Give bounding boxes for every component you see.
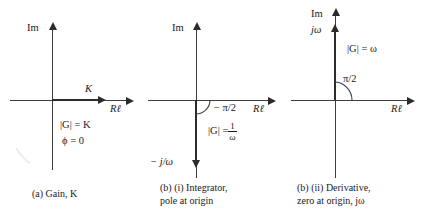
panel-gain: Im Rℓ K |G| = K ϕ = 0 (a) Gain, K — [0, 0, 140, 222]
integrator-magnitude-fraction: 1ω — [228, 122, 236, 142]
fraction-denominator: ω — [228, 133, 236, 142]
imaginary-axis-arrowhead-icon — [49, 22, 57, 30]
derivative-vector-arrowhead-icon — [331, 24, 339, 32]
derivative-magnitude-annotation: |G| = ω — [347, 44, 377, 55]
gain-vector-arrowhead-icon — [98, 96, 106, 104]
real-axis-label: Rℓ — [110, 104, 121, 115]
real-axis-arrowhead-icon — [407, 97, 415, 105]
integrator-vector-arrowhead-icon — [192, 160, 200, 168]
imaginary-axis-label: Im — [311, 9, 323, 20]
gain-vector-label: K — [85, 84, 92, 95]
imaginary-axis-label: Im — [172, 23, 184, 34]
figure-complex-plane-phasors: Im Rℓ K |G| = K ϕ = 0 (a) Gain, K Im Rℓ … — [0, 0, 422, 222]
real-axis-label: Rℓ — [253, 104, 264, 115]
imaginary-axis-arrowhead-icon — [332, 8, 340, 16]
panel-derivative: Im Rℓ jω |G| = ω π/2 (b) (ii) Derivative… — [285, 0, 422, 222]
imaginary-axis-arrowhead-icon — [193, 22, 201, 30]
integrator-vector-label: − j/ω — [150, 157, 173, 168]
panel-caption-integrator: (b) (i) Integrator, pole at origin — [160, 182, 285, 207]
integrator-magnitude-prefix: |G| = — [208, 125, 228, 136]
positive-phase-arc-icon — [319, 76, 365, 122]
gain-phase-annotation: ϕ = 0 — [62, 136, 84, 147]
integrator-magnitude-annotation: |G| =1ω — [208, 122, 237, 142]
gain-magnitude-annotation: |G| = K — [60, 120, 91, 131]
panel-caption-derivative: (b) (ii) Derivative, zero at origin, jω — [297, 182, 422, 207]
imaginary-axis-label: Im — [27, 23, 39, 34]
derivative-angle-label: π/2 — [343, 74, 356, 85]
panel-integrator: Im Rℓ − j/ω − π/2 |G| =1ω (b) (i) Integr… — [140, 0, 285, 222]
fraction-numerator: 1 — [228, 122, 236, 131]
derivative-vector-label: jω — [311, 25, 321, 36]
real-axis-arrowhead-icon — [126, 97, 134, 105]
integrator-angle-label: − π/2 — [214, 103, 236, 114]
real-axis-arrowhead-icon — [268, 97, 276, 105]
gain-vector — [52, 99, 100, 101]
panel-caption-gain: (a) Gain, K — [32, 188, 142, 201]
scan-smudge-icon — [14, 146, 36, 168]
real-axis-label: Rℓ — [391, 104, 402, 115]
